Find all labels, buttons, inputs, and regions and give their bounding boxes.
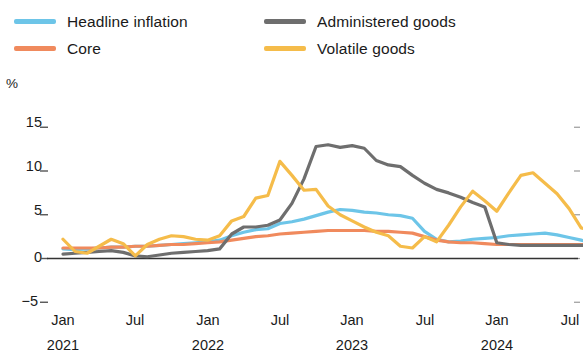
y-axis-ticks-left <box>40 127 48 302</box>
line-chart-plot <box>0 0 583 362</box>
data-series-group <box>63 145 583 257</box>
y-axis-ticks-right <box>574 127 580 302</box>
series-line-volatile-goods <box>63 161 583 256</box>
